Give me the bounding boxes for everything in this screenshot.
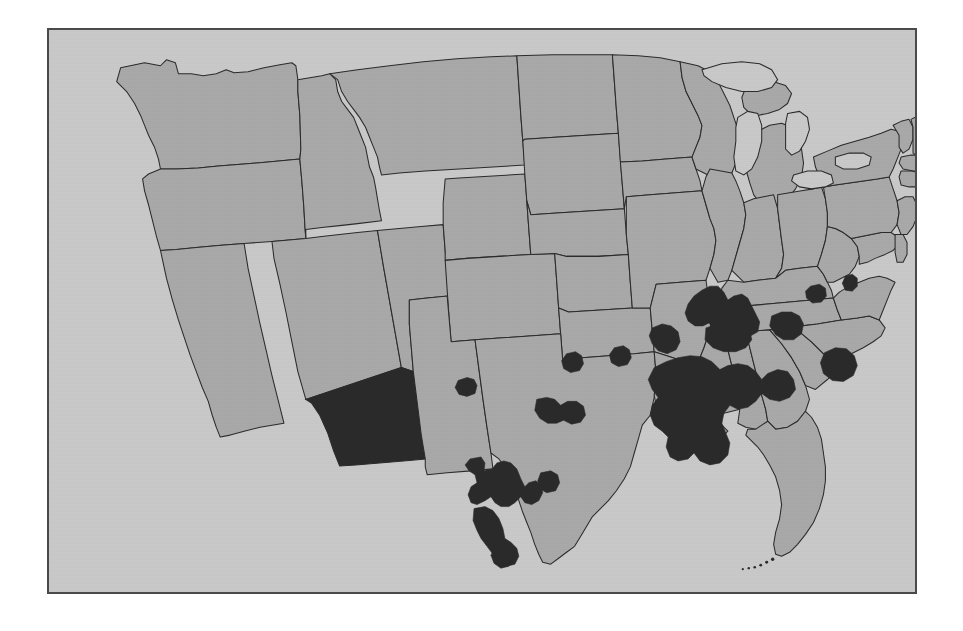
lake-ontario <box>835 153 871 169</box>
highlight-nm-central <box>455 378 477 397</box>
highlight-tx-coastal <box>538 471 560 493</box>
us-choropleth-map: .land { fill: #a9a9a9; stroke: #2b2b2b; … <box>49 30 915 592</box>
state-OK <box>559 308 655 360</box>
state-CT <box>899 171 915 187</box>
state-DE <box>895 235 907 263</box>
state-WY <box>443 174 531 260</box>
state-OR <box>143 159 306 250</box>
key-dot <box>748 567 750 569</box>
key-dot <box>771 558 774 561</box>
state-KS <box>555 253 633 312</box>
key-dot <box>765 561 768 564</box>
key-dot <box>742 568 744 570</box>
state-SD <box>523 133 625 214</box>
key-dot <box>753 566 756 569</box>
key-dot <box>759 564 762 567</box>
map-figure: .land { fill: #a9a9a9; stroke: #2b2b2b; … <box>47 28 917 594</box>
lake-erie <box>792 171 834 189</box>
state-CO <box>445 253 560 341</box>
state-ND <box>517 55 619 141</box>
